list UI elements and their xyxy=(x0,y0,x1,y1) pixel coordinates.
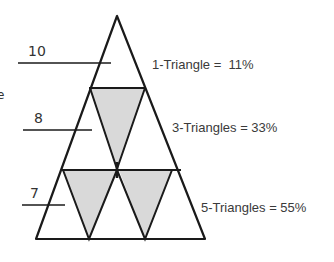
shaded-inverted-triangle-row2 xyxy=(90,88,145,169)
shaded-inverted-triangle-row3-left xyxy=(63,170,117,239)
triangle-diagram: 10 8 7 e 1-Triangle = 11% 3-Triangles = … xyxy=(0,0,334,262)
shaded-inverted-triangle-row3-right xyxy=(119,170,172,239)
left-label-8: 8 xyxy=(34,110,43,126)
right-label-row2: 3-Triangles = 33% xyxy=(172,120,278,135)
left-label-10: 10 xyxy=(28,43,46,59)
left-label-7: 7 xyxy=(30,185,39,201)
cropped-left-text: e xyxy=(0,88,4,102)
right-label-row3: 5-Triangles = 55% xyxy=(201,200,307,215)
right-label-row1: 1-Triangle = 11% xyxy=(152,57,254,72)
